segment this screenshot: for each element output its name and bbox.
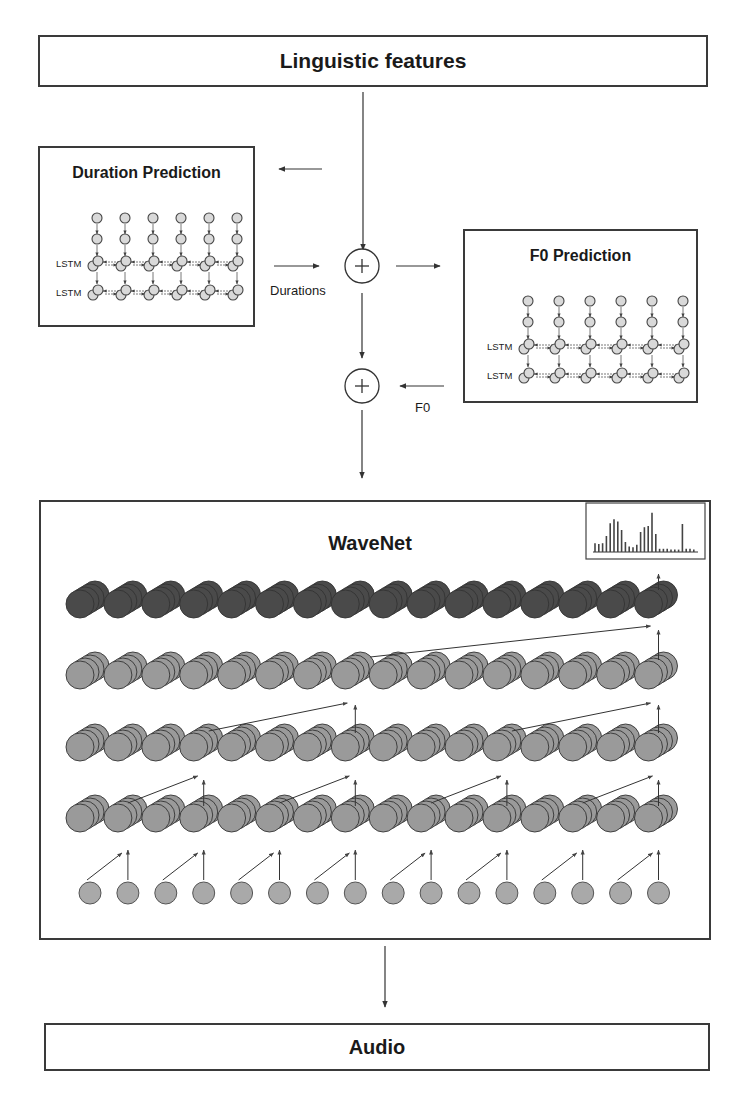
connectors-layer: LSTMLSTM LSTMLSTM bbox=[0, 0, 748, 1109]
sum-node-2 bbox=[345, 369, 379, 403]
svg-text:LSTM: LSTM bbox=[56, 287, 81, 298]
tts-pipeline-diagram: Linguistic features Duration Prediction … bbox=[0, 0, 748, 1109]
sum-node-1 bbox=[345, 249, 379, 283]
svg-text:LSTM: LSTM bbox=[487, 341, 512, 352]
output-distribution-histogram bbox=[586, 503, 705, 559]
wavenet-dilated-stack bbox=[66, 574, 678, 904]
f0-lstm-network: LSTMLSTM bbox=[487, 296, 689, 383]
svg-text:LSTM: LSTM bbox=[56, 258, 81, 269]
svg-text:LSTM: LSTM bbox=[487, 370, 512, 381]
duration-lstm-network: LSTMLSTM bbox=[56, 213, 243, 300]
